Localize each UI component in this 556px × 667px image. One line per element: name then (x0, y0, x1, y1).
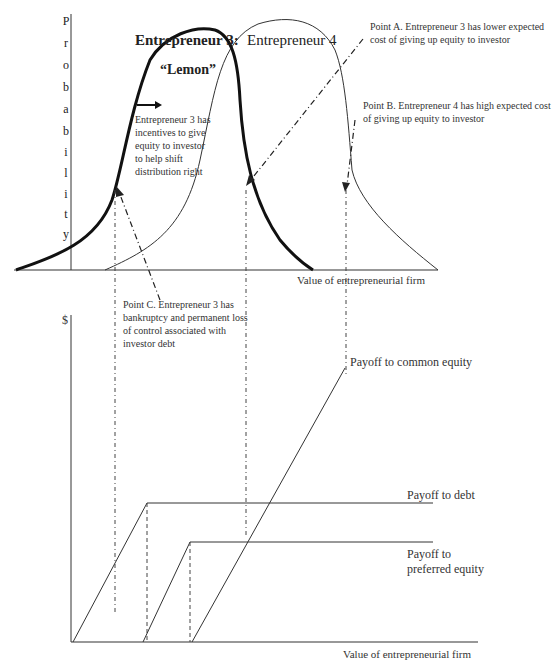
point-c-leader (119, 192, 160, 300)
y-label-letter: r (61, 37, 71, 49)
point-b-note: Point B. Entrepreneur 4 has high expecte… (363, 99, 551, 125)
shift-right-arrow-head (155, 101, 162, 109)
lemon-label: “Lemon” (160, 62, 216, 78)
note-line: of giving up equity to investor (363, 112, 551, 125)
y-label-letter: a (61, 103, 71, 115)
y-label-letter: i (61, 188, 71, 200)
note-line: Entrepreneur 3 has (135, 113, 211, 126)
label-line: preferred equity (407, 562, 484, 577)
y-label-letter: o (61, 59, 71, 71)
note-line: equity to investor (135, 139, 211, 152)
common-equity-label: Payoff to common equity (350, 355, 472, 370)
note-line: Point C. Entrepreneur 3 has (123, 298, 248, 311)
y-label-letter: t (61, 208, 71, 220)
y-label-letter: l (61, 167, 71, 179)
preferred-payoff-line (143, 542, 433, 642)
note-line: bankruptcy and permanent loss (123, 311, 248, 324)
note-line: to help shift (135, 152, 211, 165)
note-line: cost of giving up equity to investor (370, 33, 544, 46)
bottom-y-axis-label: $ (62, 313, 68, 328)
entrepreneur4-label: Entrepreneur 4 (247, 32, 337, 49)
bottom-x-axis-label: Value of entrepreneurial firm (343, 648, 471, 660)
y-label-letter: P (61, 15, 71, 27)
incentive-note: Entrepreneur 3 has incentives to give eq… (135, 113, 211, 178)
preferred-equity-label: Payoff to preferred equity (407, 547, 484, 577)
top-x-axis-label: Value of entrepreneurial firm (297, 274, 425, 286)
point-a-note: Point A. Entrepreneur 3 has lower expect… (370, 20, 544, 46)
entrepreneur3-label: Entrepreneur 3: (135, 32, 239, 49)
y-label-letter: b (61, 125, 71, 137)
note-line: incentives to give (135, 126, 211, 139)
note-line: Point A. Entrepreneur 3 has lower expect… (370, 20, 544, 33)
note-line: investor debt (123, 337, 248, 350)
y-label-letter: i (61, 146, 71, 158)
common-payoff-line (192, 368, 345, 642)
note-line: Point B. Entrepreneur 4 has high expecte… (363, 99, 551, 112)
debt-label: Payoff to debt (407, 488, 475, 503)
y-label-letter: b (61, 81, 71, 93)
point-c-arrowhead (116, 186, 124, 197)
note-line: of control associated with (123, 324, 248, 337)
y-label-letter: y (61, 228, 71, 240)
note-line: distribution right (135, 165, 211, 178)
label-line: Payoff to (407, 547, 484, 562)
point-a-leader (250, 39, 363, 181)
debt-payoff-line (73, 503, 433, 642)
point-c-note: Point C. Entrepreneur 3 has bankruptcy a… (123, 298, 248, 350)
